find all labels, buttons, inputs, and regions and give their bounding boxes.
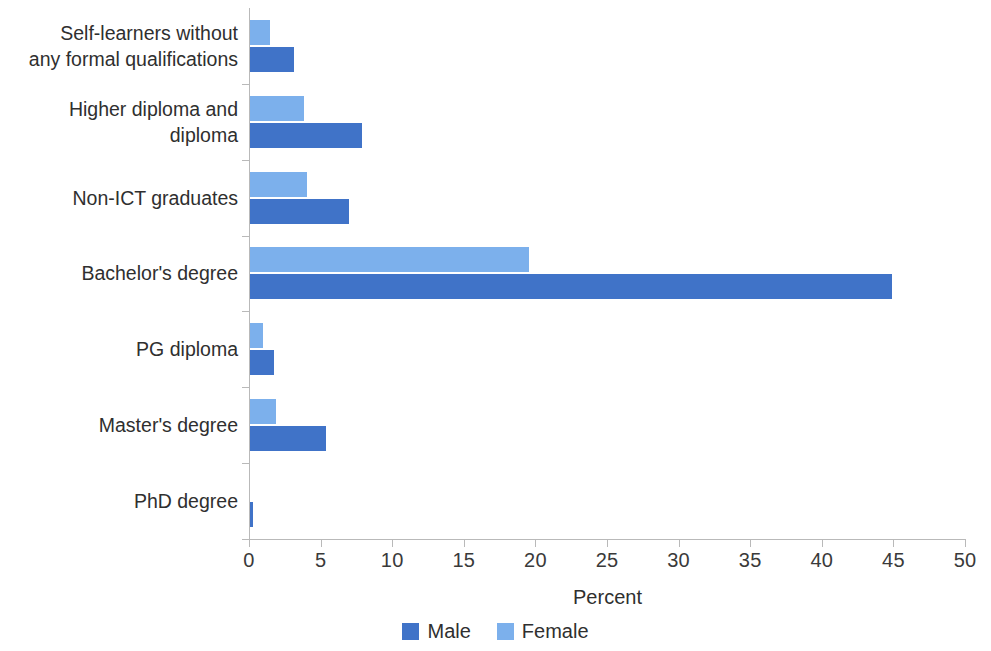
- y-axis-tick: [242, 539, 249, 540]
- y-axis-tick: [242, 463, 249, 464]
- x-axis-tick-label: 50: [954, 549, 977, 572]
- bar-female: [250, 172, 307, 197]
- x-axis-tick-label: 5: [315, 549, 326, 572]
- x-axis-tick: [392, 539, 393, 547]
- legend-item: Male: [402, 620, 470, 643]
- y-axis-tick: [242, 160, 249, 161]
- category-label: PG diploma: [0, 336, 238, 362]
- y-axis-tick: [242, 387, 249, 388]
- x-axis-tick: [249, 539, 250, 547]
- category-label: Non-ICT graduates: [0, 185, 238, 211]
- category-label: Master's degree: [0, 412, 238, 438]
- legend-label: Female: [522, 620, 589, 643]
- category-row: Self-learners without any formal qualifi…: [249, 8, 965, 84]
- bar-male: [250, 274, 892, 299]
- x-axis-title: Percent: [249, 586, 966, 609]
- x-axis-tick-label: 35: [739, 549, 762, 572]
- category-label: PhD degree: [0, 488, 238, 514]
- x-axis-tick: [965, 539, 966, 547]
- category-row: PhD degree: [249, 463, 965, 539]
- legend-swatch-icon: [402, 623, 419, 640]
- x-axis-tick: [822, 539, 823, 547]
- x-axis-tick-label: 30: [667, 549, 690, 572]
- category-row: Non-ICT graduates: [249, 160, 965, 236]
- x-axis-tick-label: 15: [452, 549, 475, 572]
- category-row: Master's degree: [249, 387, 965, 463]
- bar-male: [250, 502, 253, 527]
- category-label: Bachelor's degree: [0, 260, 238, 286]
- chart-legend: MaleFemale: [0, 620, 991, 643]
- legend-label: Male: [427, 620, 470, 643]
- y-axis-tick: [242, 311, 249, 312]
- bar-male: [250, 199, 349, 224]
- x-axis-tick-label: 0: [243, 549, 254, 572]
- bar-female: [250, 20, 270, 45]
- y-axis-tick: [242, 84, 249, 85]
- x-axis-tick: [679, 539, 680, 547]
- x-axis-tick: [750, 539, 751, 547]
- x-axis-tick: [607, 539, 608, 547]
- bar-male: [250, 47, 294, 72]
- category-label: Higher diploma and diploma: [0, 96, 238, 148]
- bar-male: [250, 123, 362, 148]
- bar-male: [250, 350, 274, 375]
- plot-area: Self-learners without any formal qualifi…: [249, 8, 965, 539]
- bar-female: [250, 247, 529, 272]
- bar-chart: Self-learners without any formal qualifi…: [0, 0, 991, 651]
- category-label: Self-learners without any formal qualifi…: [0, 20, 238, 72]
- category-row: Bachelor's degree: [249, 236, 965, 312]
- bar-female: [250, 323, 263, 348]
- legend-swatch-icon: [497, 623, 514, 640]
- x-axis-tick-label: 25: [596, 549, 619, 572]
- x-axis-tick-label: 40: [810, 549, 833, 572]
- x-axis-tick: [464, 539, 465, 547]
- category-row: PG diploma: [249, 311, 965, 387]
- x-axis-tick-label: 10: [381, 549, 404, 572]
- category-row: Higher diploma and diploma: [249, 84, 965, 160]
- x-axis-tick: [321, 539, 322, 547]
- x-axis-tick: [893, 539, 894, 547]
- x-axis-tick-label: 45: [882, 549, 905, 572]
- x-axis-tick: [535, 539, 536, 547]
- y-axis-tick: [242, 236, 249, 237]
- x-axis-tick-label: 20: [524, 549, 547, 572]
- bar-female: [250, 399, 276, 424]
- bar-male: [250, 426, 326, 451]
- legend-item: Female: [497, 620, 589, 643]
- bar-female: [250, 96, 304, 121]
